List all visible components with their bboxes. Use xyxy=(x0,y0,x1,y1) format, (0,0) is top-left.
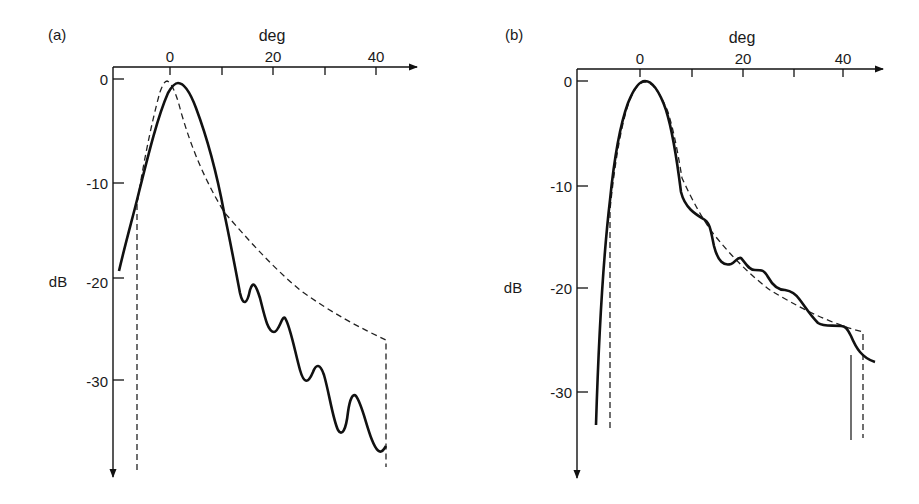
y-tick-label: -30 xyxy=(86,373,108,390)
y-tick-label: -10 xyxy=(86,175,108,192)
y-tick-label: 0 xyxy=(100,71,108,88)
x-tick-label: 20 xyxy=(265,48,282,65)
solid-curve-a xyxy=(119,83,386,452)
y-ticks-a xyxy=(113,79,124,380)
x-ticks-b xyxy=(640,69,843,77)
figure: (a) deg dB 0 20 40 0 -10 -20 -30 xyxy=(0,0,919,504)
y-axis-title-a: dB xyxy=(49,273,67,290)
solid-curve-b xyxy=(596,81,875,425)
y-tick-label: -20 xyxy=(86,274,108,291)
y-ticks-b xyxy=(577,81,588,392)
x-ticks-a xyxy=(170,67,376,75)
panel-label-b: (b) xyxy=(505,26,523,43)
x-axis-title-a: deg xyxy=(259,27,286,44)
panel-a: (a) deg dB 0 20 40 0 -10 -20 -30 xyxy=(48,26,417,477)
x-tick-label: 40 xyxy=(368,48,385,65)
panel-label-a: (a) xyxy=(48,26,66,43)
x-axis-title-b: deg xyxy=(729,29,756,46)
x-tick-label: 0 xyxy=(636,50,644,67)
y-tick-label: 0 xyxy=(564,73,572,90)
x-tick-label: 40 xyxy=(835,50,852,67)
y-tick-label: -20 xyxy=(550,280,572,297)
y-axis-title-b: dB xyxy=(504,279,522,296)
y-tick-label: -10 xyxy=(550,178,572,195)
x-tick-label: 20 xyxy=(735,50,752,67)
x-tick-label: 0 xyxy=(166,48,174,65)
panel-b: (b) deg dB 0 20 40 0 -10 -20 -30 xyxy=(504,26,883,478)
y-tick-label: -30 xyxy=(550,384,572,401)
